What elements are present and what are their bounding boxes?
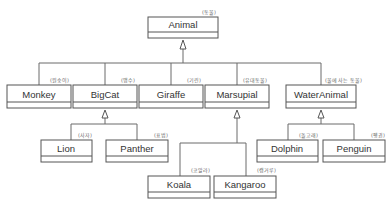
class-note: (코알라)	[191, 167, 210, 174]
class-name: Penguin	[337, 143, 372, 154]
class-note: (사자)	[78, 132, 92, 139]
class-box-kangaroo[interactable]: Kangaroo (캥거루)	[214, 167, 276, 198]
class-name: Giraffe	[157, 89, 185, 100]
class-name: Marsupial	[216, 89, 257, 100]
class-name: Lion	[57, 143, 75, 154]
class-note: (물에 사는 동물)	[325, 77, 362, 84]
class-box-koala[interactable]: Koala (코알라)	[148, 167, 210, 198]
class-note: (돌고래)	[299, 132, 318, 139]
class-note: (펭귄)	[371, 132, 385, 138]
generalization-arrow-icon	[318, 110, 324, 118]
class-note: (캥거루)	[257, 167, 276, 174]
generalization-arrow-icon	[234, 110, 240, 118]
class-note: (맹수)	[121, 77, 135, 84]
class-note: (동물)	[202, 9, 216, 16]
class-box-lion[interactable]: Lion (사자)	[41, 132, 92, 162]
generalization-arrow-icon	[180, 40, 186, 49]
class-name: Koala	[167, 179, 192, 190]
class-name: Animal	[168, 19, 197, 30]
class-name: Kangaroo	[224, 179, 265, 190]
class-name: Monkey	[22, 89, 56, 100]
class-diagram: Animal (동물) Monkey (원숭이) BigCat (맹수) Gir…	[0, 0, 390, 205]
class-name: WaterAnimal	[294, 89, 348, 100]
class-note: (원숭이)	[50, 77, 69, 84]
class-name: BigCat	[91, 89, 120, 100]
class-name: Panther	[120, 143, 153, 154]
class-note: (기린)	[187, 77, 201, 84]
class-box-animal[interactable]: Animal (동물)	[148, 9, 218, 38]
class-name: Dolphin	[271, 143, 303, 154]
class-note: (유대동물)	[243, 77, 267, 84]
class-box-wateranimal[interactable]: WaterAnimal (물에 사는 동물)	[286, 77, 362, 108]
class-note: (표범)	[154, 132, 168, 138]
generalization-arrow-icon	[102, 110, 108, 118]
